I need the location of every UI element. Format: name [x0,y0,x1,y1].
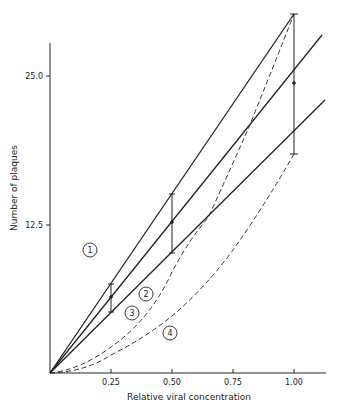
x-tick-label: 0.50 [163,378,181,387]
svg-text:2: 2 [143,290,148,299]
curve-label-3: 3 [125,306,139,320]
line-3 [50,100,325,373]
x-axis-title: Relative viral concentration [127,392,251,402]
x-tick-label: 0.75 [224,378,242,387]
y-axis-title: Number of plaques [9,145,19,231]
curve-label-4: 4 [163,326,177,340]
curve-label-1: 1 [83,243,97,257]
line-2 [50,35,322,373]
svg-text:1: 1 [87,246,92,255]
x-tick-label: 1.00 [285,378,303,387]
svg-text:4: 4 [167,329,172,338]
y-tick-label: 25.0 [25,72,43,81]
y-tick-label: 12.5 [25,221,43,230]
error-bar-0.25 [108,284,114,312]
svg-text:3: 3 [129,309,134,318]
curve-label-2: 2 [139,287,153,301]
chart: 25.0 12.5 0.25 0.50 0.75 1.00 Relative v… [0,0,343,412]
x-tick-label: 0.25 [102,378,120,387]
